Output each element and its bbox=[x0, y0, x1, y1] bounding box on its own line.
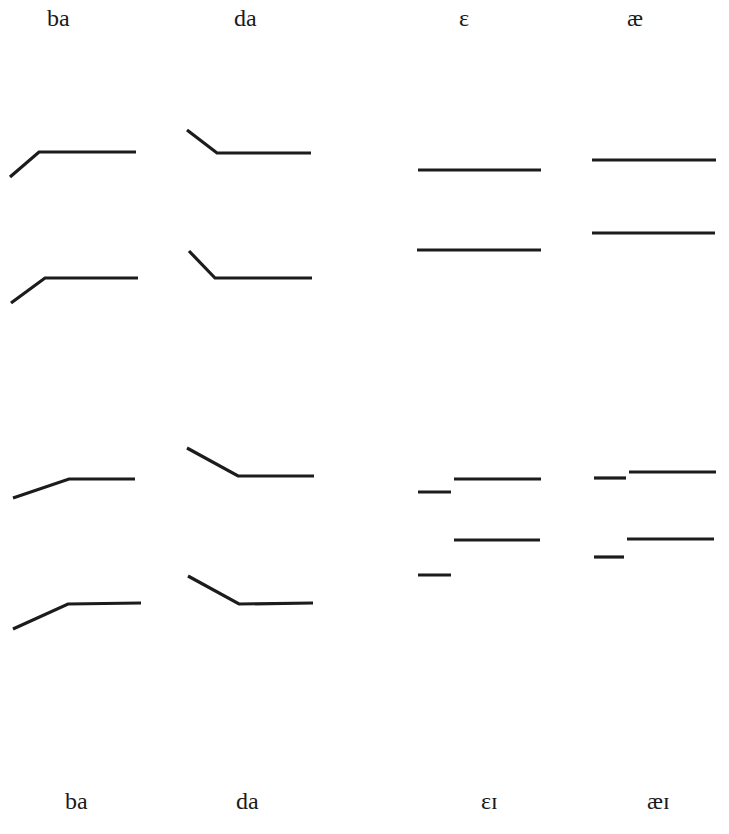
bottom-label-ae-iota: æɪ bbox=[647, 789, 670, 813]
bottom-label-ba: ba bbox=[65, 789, 88, 813]
bottom-label-epsilon-iota: ɛɪ bbox=[481, 789, 498, 813]
formant-line bbox=[188, 576, 313, 604]
formant-diagram bbox=[0, 0, 729, 834]
pattern-ba-lower bbox=[13, 479, 141, 629]
pattern-da-upper bbox=[187, 130, 312, 278]
pattern-epsilon bbox=[417, 170, 541, 250]
pattern-da-lower bbox=[187, 448, 314, 604]
formant-line bbox=[189, 251, 312, 278]
pattern-ae-iota bbox=[594, 472, 716, 557]
formant-line bbox=[10, 152, 136, 177]
pattern-ba-upper bbox=[10, 152, 138, 303]
pattern-ae bbox=[592, 160, 716, 233]
formant-line bbox=[187, 448, 314, 476]
formant-line bbox=[13, 479, 135, 498]
formant-line bbox=[11, 278, 138, 303]
pattern-epsilon-iota bbox=[418, 479, 541, 575]
formant-line bbox=[187, 130, 311, 153]
bottom-label-da: da bbox=[236, 789, 259, 813]
formant-line bbox=[13, 603, 141, 629]
